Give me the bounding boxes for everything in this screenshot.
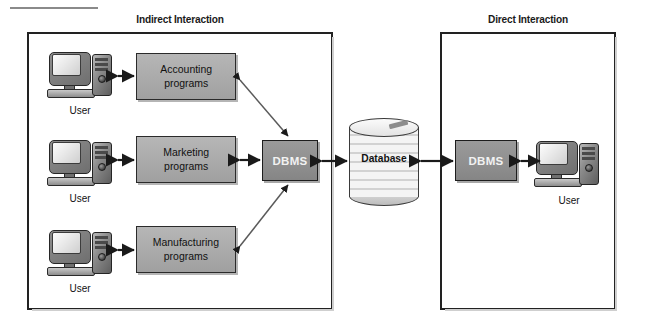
drive-bay-icon	[95, 151, 108, 154]
drive-bay-icon	[95, 68, 108, 71]
panel-title-direct: Direct Interaction	[454, 13, 601, 25]
computer-icon-direct-user	[534, 139, 606, 191]
keyboard-icon	[47, 177, 95, 186]
label-direct-user: User	[535, 194, 603, 206]
drive-bay-icon	[95, 236, 108, 239]
power-button-icon	[98, 163, 106, 171]
diagram-canvas: Indirect Interaction Direct Interaction …	[0, 0, 648, 329]
box-marketing-line2: programs	[163, 160, 209, 173]
drive-bay-icon	[95, 63, 108, 66]
box-accounting-line2: programs	[160, 77, 212, 90]
label-accounting-user: User	[46, 104, 114, 116]
screen-icon	[539, 143, 568, 165]
database-cylinder-icon: Database	[349, 118, 419, 206]
box-dbms-direct-label: DBMS	[468, 155, 503, 167]
drive-bay-icon	[95, 58, 108, 61]
label-marketing-user: User	[46, 192, 114, 204]
box-marketing-programs: Marketing programs	[136, 136, 236, 183]
computer-icon-manufacturing-user	[47, 228, 119, 280]
drive-bay-icon	[95, 241, 108, 244]
keyboard-icon	[47, 89, 95, 98]
box-marketing-line1: Marketing	[163, 146, 209, 159]
power-button-icon	[98, 75, 106, 83]
label-manufacturing-user: User	[46, 282, 114, 294]
screen-icon	[52, 142, 81, 164]
drive-bay-icon	[582, 152, 595, 155]
drive-bay-icon	[95, 146, 108, 149]
drive-bay-icon	[95, 156, 108, 159]
box-accounting-line1: Accounting	[160, 63, 212, 76]
top-rule-divider	[10, 7, 98, 9]
drive-bay-icon	[582, 147, 595, 150]
box-dbms-indirect-label: DBMS	[272, 155, 307, 167]
box-dbms-direct: DBMS	[455, 140, 517, 181]
box-accounting-programs: Accounting programs	[136, 53, 236, 100]
drive-bay-icon	[95, 246, 108, 249]
cylinder-top	[349, 118, 419, 137]
screen-icon	[52, 54, 81, 76]
box-manufacturing-line1: Manufacturing	[153, 236, 219, 249]
computer-icon-accounting-user	[47, 50, 119, 102]
box-dbms-indirect: DBMS	[262, 140, 318, 181]
drive-bay-icon	[582, 157, 595, 160]
power-button-icon	[98, 253, 106, 261]
keyboard-icon	[47, 267, 95, 276]
box-manufacturing-line2: programs	[153, 250, 219, 263]
database-label: Database	[351, 152, 416, 164]
panel-title-indirect: Indirect Interaction	[106, 13, 253, 25]
box-manufacturing-programs: Manufacturing programs	[136, 226, 236, 273]
power-button-icon	[585, 164, 593, 172]
keyboard-icon	[534, 178, 582, 187]
screen-icon	[52, 232, 81, 254]
computer-icon-marketing-user	[47, 138, 119, 190]
